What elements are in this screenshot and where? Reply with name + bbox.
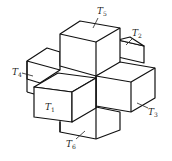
label-t6: T6 (66, 139, 76, 150)
cube-cross-diagram: T5 T2 T4 T1 T3 T6 (0, 0, 172, 161)
label-t5: T5 (97, 6, 107, 17)
label-t3: T3 (148, 107, 158, 118)
cube-t2 (118, 37, 144, 63)
label-t2: T2 (132, 28, 142, 39)
label-t4: T4 (12, 67, 22, 78)
